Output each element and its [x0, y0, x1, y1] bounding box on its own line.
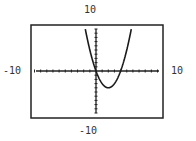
graph-plot	[0, 0, 196, 141]
parabola-curve	[85, 29, 131, 88]
